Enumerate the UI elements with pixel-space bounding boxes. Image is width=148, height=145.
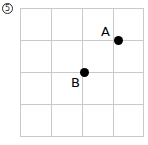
grid-figure: 5 AB: [0, 0, 148, 145]
grid-plot-area: AB: [0, 0, 148, 145]
grid-line-horizontal-3: [20, 104, 144, 105]
grid-line-horizontal-1: [20, 40, 144, 41]
data-point-label-b: B: [71, 76, 80, 89]
data-point-a: [114, 36, 123, 45]
grid-line-horizontal-0: [20, 8, 144, 9]
data-point-label-a: A: [101, 25, 110, 38]
data-point-b: [80, 68, 89, 77]
grid-line-horizontal-4: [20, 136, 144, 137]
